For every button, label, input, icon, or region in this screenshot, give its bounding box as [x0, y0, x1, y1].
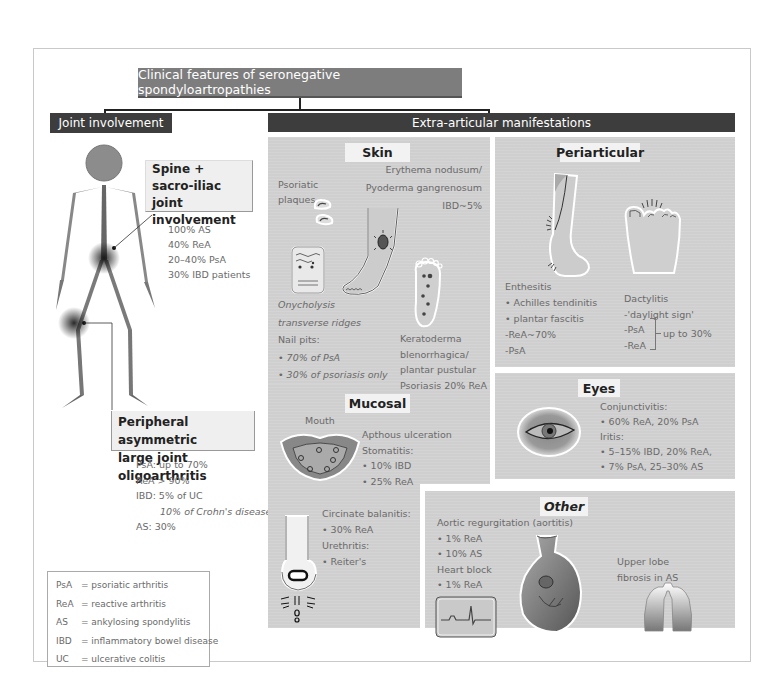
spine-stats: 100% AS 40% ReA 20–40% PsA 30% IBD patie… — [168, 222, 251, 282]
mucosal-label: Mucosal — [345, 394, 410, 413]
text-line: Urethritis: — [322, 538, 411, 554]
stat-line: 30% IBD patients — [168, 267, 251, 282]
connector-horizontal — [104, 109, 489, 111]
text-line: Keratoderma — [400, 331, 487, 347]
diagram-title: Clinical features of seronegative spondy… — [138, 68, 462, 98]
text-line: • 10% IBD — [362, 458, 452, 474]
callout-line: Spine + — [152, 161, 252, 178]
text-line: • 30% of psoriasis only — [278, 366, 388, 384]
legend-abbr: UC — [56, 650, 78, 669]
bracket-tick — [656, 333, 661, 334]
text-line: Nail pits: — [278, 331, 388, 349]
legend-item: PsA = psoriatic arthritis — [56, 576, 201, 595]
lungs-icon — [643, 583, 693, 635]
enthesitis-text: Enthesitis • Achilles tendinitis • plant… — [505, 279, 597, 359]
stat-line: 20–40% PsA — [168, 252, 251, 267]
peripheral-callout: Peripheral asymmetric large joint oligoa… — [111, 411, 255, 451]
text-line: plantar pustular — [400, 362, 487, 378]
stat-line: 40% ReA — [168, 237, 251, 252]
stat-line: IBD: 5% of UC — [136, 488, 271, 504]
heart-icon — [517, 534, 585, 634]
legend-def: = inflammatory bowel disease — [81, 636, 218, 646]
text-line: • 30% ReA — [322, 522, 411, 538]
text-line: • 60% ReA, 20% PsA — [600, 414, 712, 429]
leg-erythema-icon — [338, 206, 410, 298]
genital-balanitis-icon — [278, 512, 328, 622]
heel-enthesitis-icon — [545, 172, 595, 284]
legend-item: ReA = reactive arthritis — [56, 595, 201, 614]
lung-text: Upper lobe fibrosis in AS — [617, 554, 678, 586]
text-line: -PsA — [505, 343, 597, 359]
text-line: Circinate balanitis: — [322, 506, 411, 522]
keratoderma-text: Keratoderma blenorrhagica/ plantar pustu… — [400, 331, 487, 393]
text-line: transverse ridges — [278, 314, 388, 332]
legend-abbr: PsA — [56, 576, 78, 595]
text-line: Aortic regurgitation (aortitis) — [437, 515, 573, 531]
text-line: Pyoderma gangrenosum — [348, 179, 482, 197]
text-line: Conjunctivitis: — [600, 399, 712, 414]
legend-item: IBD = inflammatory bowel disease — [56, 632, 201, 651]
stat-line: PsA: up to 70% — [136, 457, 271, 473]
stat-line: ReA > 90% — [136, 473, 271, 489]
text-line: Apthous ulceration — [362, 427, 452, 443]
peripheral-stats: PsA: up to 70% ReA > 90% IBD: 5% of UC 1… — [136, 457, 271, 535]
extra-articular-header: Extra-articular manifestations — [268, 113, 735, 132]
eye-icon — [516, 406, 582, 458]
legend-abbr: IBD — [56, 632, 78, 651]
toe-dactylitis-icon — [620, 195, 690, 275]
periarticular-label: Periarticular — [560, 143, 640, 162]
callout-line: Peripheral asymmetric — [118, 413, 254, 449]
joint-involvement-header: Joint involvement — [50, 113, 172, 133]
spine-callout: Spine + sacro-iliac joint involvement — [145, 160, 253, 212]
mouth-label: Mouth — [305, 412, 335, 429]
dactylitis-text: Dactylitis -'daylight sign' -PsA -ReA — [624, 291, 694, 353]
text-line: • plantar fascitis — [505, 311, 597, 327]
sole-keratoderma-icon — [410, 258, 444, 330]
stat-line: 100% AS — [168, 222, 251, 237]
text-line: • 70% of PsA — [278, 349, 388, 367]
text-line: -ReA~70% — [505, 327, 597, 343]
text-line: Enthesitis — [505, 279, 597, 295]
text-line: Iritis: — [600, 429, 712, 444]
text-line: Upper lobe — [617, 554, 678, 570]
legend-abbr: AS — [56, 613, 78, 632]
oral-text: Apthous ulceration Stomatitis: • 10% IBD… — [362, 427, 452, 489]
eyes-text: Conjunctivitis: • 60% ReA, 20% PsA Iriti… — [600, 399, 712, 474]
text-line: • 5–15% IBD, 20% ReA, — [600, 444, 712, 459]
text-line: • 7% PsA, 25–30% AS — [600, 459, 712, 474]
other-label: Other — [540, 497, 588, 516]
dactylitis-range: up to 30% — [663, 325, 712, 342]
eyes-label: Eyes — [578, 379, 620, 397]
skin-label: Skin — [345, 143, 410, 162]
text-line: blenorrhagica/ — [400, 347, 487, 363]
stat-line: AS: 30% — [136, 519, 271, 535]
mouth-icon — [279, 430, 361, 482]
genital-text: Circinate balanitis: • 30% ReA Urethriti… — [322, 506, 411, 570]
text-line: • 25% ReA — [362, 474, 452, 490]
legend-abbr: ReA — [56, 595, 78, 614]
text-line: Erythema nodusum/ — [348, 161, 482, 179]
text-line: • Reiter's — [322, 554, 411, 570]
legend-def: = ulcerative colitis — [81, 654, 165, 664]
text-line: -'daylight sign' — [624, 307, 694, 323]
legend-def: = psoriatic arthritis — [81, 580, 168, 590]
text-line: Psoriasis 20% ReA — [400, 378, 487, 394]
ecg-monitor-icon — [435, 596, 497, 638]
psoriatic-plaques-icon — [312, 196, 336, 228]
legend-def: = reactive arthritis — [81, 599, 166, 609]
text-line: Stomatitis: — [362, 443, 452, 459]
legend-def: = ankylosing spondylitis — [81, 617, 191, 627]
legend-item: AS = ankylosing spondylitis — [56, 613, 201, 632]
stat-line: 10% of Crohn's disease — [136, 504, 271, 520]
legend-item: UC = ulcerative colitis — [56, 650, 201, 669]
nail-icon — [290, 245, 326, 295]
bracket — [650, 318, 656, 350]
text-line: • Achilles tendinitis — [505, 295, 597, 311]
nail-text: Onycholysis transverse ridges Nail pits:… — [278, 296, 388, 384]
abbreviation-legend: PsA = psoriatic arthritis ReA = reactive… — [47, 571, 210, 667]
text-line: Dactylitis — [624, 291, 694, 307]
text-line: Onycholysis — [278, 296, 388, 314]
callout-line: sacro-iliac joint — [152, 178, 252, 212]
